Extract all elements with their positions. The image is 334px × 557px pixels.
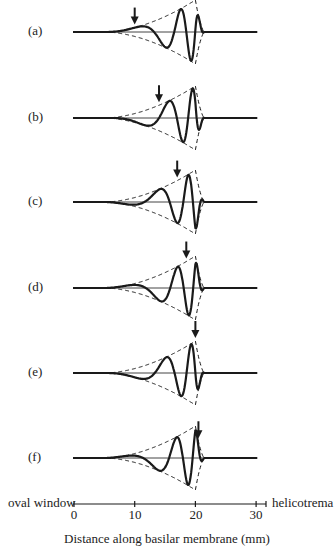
panel-label-a: (a) xyxy=(28,23,42,39)
wave-curve xyxy=(73,88,257,142)
wave-curve xyxy=(73,263,257,316)
lower-envelope xyxy=(104,202,204,234)
upper-envelope xyxy=(104,0,204,32)
tick-label-0: 0 xyxy=(71,507,78,523)
down-arrow-icon xyxy=(191,330,199,338)
panel-a xyxy=(73,0,257,64)
lower-envelope xyxy=(104,373,204,405)
panel-label-f: (f) xyxy=(28,449,41,465)
panel-label-b: (b) xyxy=(28,109,43,125)
panel-e xyxy=(73,321,257,405)
tick-label-20: 20 xyxy=(190,507,203,523)
upper-envelope xyxy=(104,426,204,458)
down-arrow-icon xyxy=(131,17,139,25)
tick-label-30: 30 xyxy=(250,507,263,523)
panel-label-c: (c) xyxy=(28,193,42,209)
x-axis-title: Distance along basilar membrane (mm) xyxy=(64,531,270,547)
tick-label-10: 10 xyxy=(129,507,142,523)
down-arrow-icon xyxy=(155,94,163,102)
down-arrow-icon xyxy=(173,170,181,178)
oval-window-label: oval window xyxy=(8,495,76,511)
panel-d xyxy=(73,242,257,320)
panel-label-e: (e) xyxy=(28,364,42,380)
panel-f xyxy=(73,421,257,490)
upper-envelope xyxy=(104,256,204,288)
helicotrema-label: helicotrema xyxy=(272,495,333,511)
down-arrow-icon xyxy=(182,251,190,259)
distance-axis xyxy=(73,501,266,507)
panel-label-d: (d) xyxy=(28,279,43,295)
traveling-wave-figure xyxy=(0,0,334,557)
panel-b xyxy=(73,85,257,150)
panel-c xyxy=(73,161,257,234)
